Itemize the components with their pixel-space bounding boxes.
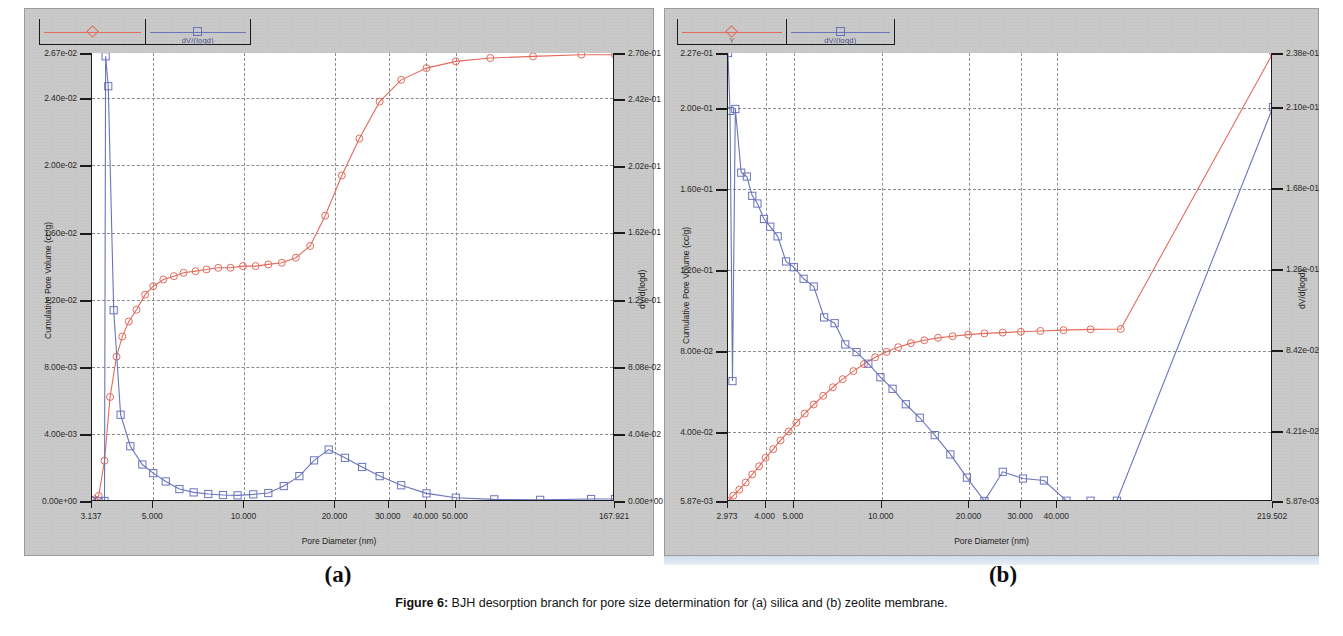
y2-axis-tick-label: 2.38e-01 [1286,48,1319,58]
y-axis-tick-label: 2.40e-02 [25,93,77,103]
x-axis-tick-label: 219.502 [1257,511,1287,521]
panel-a-plot-inner [92,53,613,500]
x-axis-tick [334,501,335,508]
data-point-square [981,497,988,500]
figure-caption-prefix: Figure 6: [395,596,448,610]
x-axis-tick [91,501,92,508]
y-axis-tick [80,367,91,369]
panel-b-plot-area [727,53,1272,501]
y2-axis-tick [614,367,625,369]
square-marker-icon [193,27,202,36]
y2-axis-tick-label: 5.87e-03 [1286,496,1319,506]
x-axis-tick [881,501,882,508]
x-axis-tick [614,501,615,508]
panel-b-sublabel: (b) [989,562,1017,588]
y2-axis-tick [1272,431,1283,433]
x-axis-tick [1056,501,1057,508]
x-axis-tick [1020,501,1021,508]
diamond-marker-icon [86,25,99,38]
y2-axis-tick-label: 8.08e-02 [628,362,661,372]
figure-caption-text: BJH desorption branch for pore size dete… [448,596,948,610]
y2-axis-tick [1272,107,1283,109]
x-axis-tick-label: 167.921 [599,511,629,521]
x-axis-tick-label: 10.000 [868,511,893,521]
x-axis-tick-label: 3.137 [81,511,102,521]
y2-axis-tick [614,53,625,55]
series-layer [728,53,1271,500]
data-point-square [728,107,734,114]
x-axis-tick-label: 2.973 [717,511,738,521]
y2-axis-tick [1272,53,1283,55]
y2-axis-tick [614,434,625,436]
y-axis-tick-label: 4.00e-02 [665,427,713,437]
series-layer [92,53,613,500]
y-axis-tick-label: 1.20e-02 [25,295,77,305]
y2-axis-tick [1272,269,1283,271]
x-axis-tick [1272,501,1273,508]
x-axis-tick-label: 30.000 [1007,511,1032,521]
x-axis-tick-label: 5.000 [782,511,803,521]
data-point-square [1269,103,1271,110]
panel-b-x-axis-title: Pore Diameter (nm) [665,536,1318,546]
y-axis-tick [716,270,727,272]
series-line-cumulative [728,53,1271,500]
y-axis-tick-label: 0.00e+00 [25,496,77,506]
y-axis-tick-label: 5.87e-03 [665,496,713,506]
y-axis-tick-label: 2.67e-02 [25,48,77,58]
x-axis-tick [727,501,728,508]
y-axis-tick [80,434,91,436]
y2-axis-tick-label: 1.68e-01 [1286,183,1319,193]
y-axis-tick [716,351,727,353]
legend-label-cumulative: Y [678,36,786,45]
panel-b-y2-axis-title: dV/d(logd) [1297,270,1307,309]
panel-a-legend: dV/(logd) [39,19,251,45]
figure-caption: Figure 6: BJH desorption branch for pore… [0,596,1343,610]
x-axis-tick-label: 5.000 [142,511,163,521]
y-axis-tick-label: 4.00e-03 [25,429,77,439]
panel-a: dV/(logd) Cumulative Pore Volume (cc/g) … [24,8,654,556]
legend-label-dv: dV/(logd) [787,36,895,45]
y-axis-tick [80,501,91,503]
data-point-circle [1270,53,1272,57]
x-axis-tick-label: 40.000 [1044,511,1069,521]
x-axis-tick-label: 20.000 [956,511,981,521]
y-axis-tick [716,108,727,110]
panel-b-plot-inner [728,53,1271,500]
series-line-dv [92,56,613,500]
y2-axis-tick-label: 2.02e-01 [628,161,661,171]
panel-b: Y dV/(logd) Cumulative Pore Volume (cc/g… [664,8,1319,556]
x-axis-tick [425,501,426,508]
series-line-dv [728,53,1271,500]
x-axis-tick-label: 50.000 [442,511,467,521]
y2-axis-tick-label: 1.26e-01 [1286,264,1319,274]
legend-item-cumulative [40,19,145,44]
y2-axis-tick-label: 2.70e-01 [628,48,661,58]
x-axis-tick-label: 4.000 [754,511,775,521]
y2-axis-tick [614,166,625,168]
y-axis-tick [716,53,727,55]
data-point-square [1087,497,1094,500]
data-point-circle [612,53,614,58]
y2-axis-tick-label: 2.42e-01 [628,94,661,104]
x-axis-tick [243,501,244,508]
y2-axis-tick [614,300,625,302]
panel-b-y-axis-title: Cumulative Pore Volume (cc/g) [681,227,691,344]
x-axis-tick-label: 40.000 [413,511,438,521]
y-axis-tick-label: 2.27e-01 [665,48,713,58]
y2-axis-tick-label: 1.21e-01 [628,295,661,305]
data-point-circle [578,53,585,58]
y-axis-tick [80,165,91,167]
legend-item-dv: dV/(logd) [786,19,895,44]
y-axis-tick [716,432,727,434]
y2-axis-tick [1272,501,1283,503]
y-axis-tick-label: 8.00e-03 [25,362,77,372]
panel-a-y-axis-title: Cumulative Pore Volume (cc/g) [43,222,53,339]
y2-axis-tick-label: 8.42e-02 [1286,345,1319,355]
y2-axis-tick-label: 1.62e-01 [628,227,661,237]
y-axis-tick-label: 2.00e-01 [665,103,713,113]
legend-label-dv: dV/(logd) [146,36,251,45]
legend-item-cumulative: Y [678,19,786,44]
x-axis-tick-label: 10.000 [231,511,256,521]
figure-page: dV/(logd) Cumulative Pore Volume (cc/g) … [0,0,1343,636]
x-axis-tick [455,501,456,508]
